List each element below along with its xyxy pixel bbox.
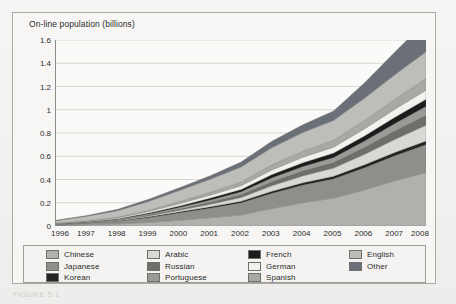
x-tick-label: 2000 [169,229,187,238]
y-axis-tick-labels: 00.20.40.60.811.21.41.6 [13,40,51,226]
y-tick-label: 1.6 [40,36,51,45]
legend-swatch-icon [349,250,362,259]
legend-label: German [266,262,296,271]
y-tick-label: 0.2 [40,198,51,207]
legend-item-portuguese[interactable]: Portuguese [147,273,207,282]
legend-label: Russian [165,262,195,271]
legend-item-russian[interactable]: Russian [147,262,195,271]
legend-item-arabic[interactable]: Arabic [147,250,188,259]
legend-label: Spanish [266,273,296,282]
x-tick-label: 1996 [51,229,69,238]
legend-label: Korean [64,273,90,282]
legend-swatch-icon [147,273,160,282]
legend-label: Japanese [64,262,100,271]
legend-swatch-icon [349,262,362,271]
x-tick-label: 2005 [324,229,342,238]
legend-label: Portuguese [165,273,207,282]
x-tick-label: 2007 [385,229,403,238]
y-tick-label: 1.4 [40,59,51,68]
y-tick-label: 0.4 [40,175,51,184]
x-tick-label: 2002 [231,229,249,238]
x-tick-label: 1999 [139,229,157,238]
legend-label: French [266,250,292,259]
x-tick-label: 2001 [200,229,218,238]
legend-swatch-icon [46,273,59,282]
chart-legend: ChineseJapaneseKoreanArabicRussianPortug… [23,245,426,283]
legend-label: Arabic [165,250,188,259]
legend-swatch-icon [46,250,59,259]
legend-item-chinese[interactable]: Chinese [46,250,94,259]
figure-caption: FIGURE 5.1 [13,290,60,299]
legend-item-french[interactable]: French [248,250,292,259]
legend-swatch-icon [147,262,160,271]
y-tick-label: 0.6 [40,152,51,161]
legend-item-other[interactable]: Other [349,262,388,271]
chart-title: On-line population (billions) [29,19,135,29]
legend-label: English [367,250,394,259]
x-tick-label: 2006 [354,229,372,238]
legend-swatch-icon [248,250,261,259]
legend-item-english[interactable]: English [349,250,394,259]
legend-item-spanish[interactable]: Spanish [248,273,296,282]
x-tick-label: 2003 [262,229,280,238]
legend-swatch-icon [46,262,59,271]
figure-frame: On-line population (billions) 00.20.40.6… [12,12,436,284]
legend-item-japanese[interactable]: Japanese [46,262,100,271]
legend-swatch-icon [248,262,261,271]
y-tick-label: 1 [47,105,51,114]
plot-wrapper [55,40,425,226]
stacked-area-chart [56,40,426,226]
legend-label: Other [367,262,388,271]
legend-item-german[interactable]: German [248,262,296,271]
x-tick-label: 2004 [293,229,311,238]
plot-area [55,40,425,226]
legend-label: Chinese [64,250,94,259]
x-tick-label: 2008 [411,229,429,238]
x-tick-label: 1997 [77,229,95,238]
legend-swatch-icon [248,273,261,282]
legend-swatch-icon [147,250,160,259]
x-axis-tick-labels: 1996199719981999200020012002200320042005… [55,228,425,242]
x-tick-label: 1998 [108,229,126,238]
y-tick-label: 0.8 [40,129,51,138]
y-tick-label: 1.2 [40,82,51,91]
legend-item-korean[interactable]: Korean [46,273,90,282]
